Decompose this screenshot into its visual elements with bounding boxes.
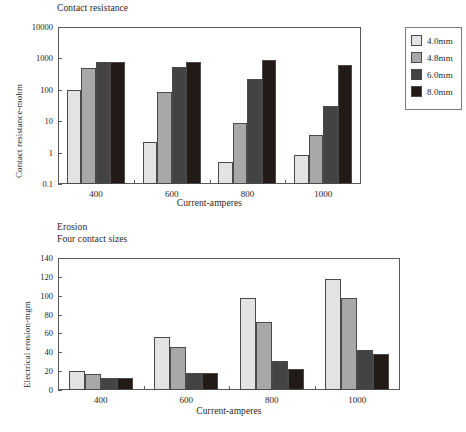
chart1-y-axis-label: Contact resistance-mohm bbox=[14, 84, 24, 178]
bar bbox=[294, 155, 309, 184]
y-tick-mark bbox=[58, 121, 62, 122]
bar bbox=[288, 369, 304, 390]
bar bbox=[218, 162, 233, 184]
bar bbox=[96, 62, 111, 184]
chart1-x-axis-label: Current-amperes bbox=[58, 198, 361, 208]
y-tick-label: 140 bbox=[0, 253, 53, 263]
y-tick-label: 10000 bbox=[0, 22, 53, 32]
bar bbox=[323, 106, 338, 184]
bar bbox=[67, 90, 82, 184]
x-tick-label: 800 bbox=[242, 395, 302, 405]
y-tick-mark bbox=[58, 371, 62, 372]
x-tick-label: 600 bbox=[142, 189, 202, 199]
legend-label-4-8mm: 4.8mm bbox=[427, 53, 453, 63]
y-tick-label: 60 bbox=[0, 328, 53, 338]
y-tick-mark bbox=[58, 153, 62, 154]
y-tick-mark bbox=[58, 390, 62, 391]
chart1-title: Contact resistance bbox=[57, 3, 128, 15]
bar bbox=[101, 378, 117, 390]
chart-electrical-erosion: Erosion Four contact sizes Electrical er… bbox=[0, 216, 466, 432]
bar bbox=[186, 62, 201, 184]
bar bbox=[110, 62, 125, 184]
x-tick-label: 1000 bbox=[293, 189, 353, 199]
y-tick-mark bbox=[58, 27, 62, 28]
bar bbox=[262, 60, 277, 184]
y-tick-mark bbox=[58, 352, 62, 353]
x-tick-label: 800 bbox=[217, 189, 277, 199]
y-tick-label: 100 bbox=[0, 291, 53, 301]
legend-item-3: 8.0mm bbox=[411, 83, 456, 100]
x-tick-mark bbox=[144, 386, 145, 390]
y-tick-mark bbox=[58, 315, 62, 316]
bar bbox=[247, 79, 262, 184]
bar bbox=[341, 298, 357, 390]
bar bbox=[143, 142, 158, 184]
y-tick-mark bbox=[58, 90, 62, 91]
legend-item-1: 4.8mm bbox=[411, 49, 456, 66]
y-tick-label: 100 bbox=[0, 85, 53, 95]
legend: 4.0mm 4.8mm 6.0mm 8.0mm bbox=[405, 27, 462, 110]
bar bbox=[325, 279, 341, 390]
x-tick-mark bbox=[229, 386, 230, 390]
chart2-title: Erosion Four contact sizes bbox=[57, 222, 127, 245]
y-tick-label: 1 bbox=[0, 148, 53, 158]
bar bbox=[256, 322, 272, 390]
bar bbox=[309, 135, 324, 184]
legend-swatch-4-0mm bbox=[411, 35, 422, 46]
y-tick-label: 10 bbox=[0, 116, 53, 126]
x-tick-mark bbox=[210, 180, 211, 184]
x-tick-label: 600 bbox=[156, 395, 216, 405]
bar bbox=[272, 361, 288, 390]
x-tick-label: 1000 bbox=[327, 395, 387, 405]
bar bbox=[172, 67, 187, 184]
y-tick-label: 120 bbox=[0, 272, 53, 282]
y-tick-mark bbox=[58, 296, 62, 297]
y-tick-mark bbox=[58, 58, 62, 59]
legend-swatch-8-0mm bbox=[411, 86, 422, 97]
x-tick-mark bbox=[134, 180, 135, 184]
y-tick-label: 80 bbox=[0, 310, 53, 320]
y-tick-label: 0.1 bbox=[0, 179, 53, 189]
legend-item-0: 4.0mm bbox=[411, 32, 456, 49]
legend-item-2: 6.0mm bbox=[411, 66, 456, 83]
y-tick-mark bbox=[58, 277, 62, 278]
bar bbox=[170, 347, 186, 390]
legend-label-4-0mm: 4.0mm bbox=[427, 36, 453, 46]
bar bbox=[357, 350, 373, 390]
bar bbox=[338, 65, 353, 184]
bar bbox=[154, 337, 170, 390]
x-tick-mark bbox=[285, 180, 286, 184]
bar bbox=[240, 298, 256, 390]
bar bbox=[233, 123, 248, 184]
y-tick-label: 40 bbox=[0, 347, 53, 357]
x-tick-label: 400 bbox=[66, 189, 126, 199]
y-tick-label: 1000 bbox=[0, 53, 53, 63]
bar bbox=[69, 371, 85, 390]
x-tick-mark bbox=[315, 386, 316, 390]
bar bbox=[157, 92, 172, 184]
chart2-x-axis-label: Current-amperes bbox=[58, 406, 400, 416]
bar bbox=[117, 378, 133, 390]
bar bbox=[81, 68, 96, 184]
legend-swatch-6-0mm bbox=[411, 69, 422, 80]
y-tick-mark bbox=[58, 333, 62, 334]
legend-swatch-4-8mm bbox=[411, 52, 422, 63]
bar bbox=[186, 373, 202, 390]
chart-contact-resistance: Contact resistance Contact resistance-mo… bbox=[0, 0, 466, 216]
legend-label-8-0mm: 8.0mm bbox=[427, 87, 453, 97]
y-tick-label: 20 bbox=[0, 366, 53, 376]
x-tick-label: 400 bbox=[71, 395, 131, 405]
bar bbox=[85, 374, 101, 390]
y-tick-mark bbox=[58, 258, 62, 259]
legend-label-6-0mm: 6.0mm bbox=[427, 70, 453, 80]
y-tick-label: 0 bbox=[0, 385, 53, 395]
figure-two-bar-charts: Contact resistance Contact resistance-mo… bbox=[0, 0, 466, 432]
bar bbox=[373, 354, 389, 390]
bar bbox=[202, 373, 218, 390]
y-tick-mark bbox=[58, 184, 62, 185]
